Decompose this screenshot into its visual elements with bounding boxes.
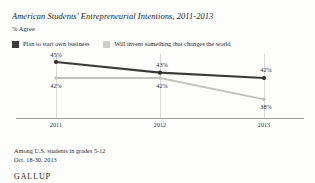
legend-swatch-icon-series-2 bbox=[103, 41, 110, 48]
footnote-line-2: Oct. 18-30, 2013 bbox=[14, 155, 303, 164]
legend-label-series-2: Will invent something that changes the w… bbox=[114, 40, 230, 48]
data-label-series-1-2013: 42% bbox=[260, 66, 271, 73]
chart-legend: Plan to start own business Will invent s… bbox=[12, 40, 303, 48]
legend-item-plan-to-start-own-business: Plan to start own business bbox=[12, 40, 89, 48]
x-tick-label-2013: 2013 bbox=[258, 121, 270, 128]
data-label-series-2-2013: 38% bbox=[260, 103, 271, 110]
x-axis-baseline bbox=[16, 118, 304, 119]
gallup-logo: GALLUP bbox=[14, 172, 303, 181]
data-point-marker bbox=[54, 60, 58, 64]
data-point-marker bbox=[158, 71, 162, 75]
chart-card: American Students' Entrepreneurial Inten… bbox=[0, 0, 315, 183]
chart-subtitle: % Agree bbox=[12, 24, 303, 33]
legend-swatch-icon-series-1 bbox=[12, 41, 19, 48]
chart-footnote: Among U.S. students in grades 5-12 Oct. … bbox=[14, 146, 303, 164]
chart-title: American Students' Entrepreneurial Inten… bbox=[12, 12, 303, 22]
data-point-marker bbox=[54, 76, 57, 79]
plot-area: 45% 43% 42% 42% 42% 38% 2011 2012 2013 bbox=[16, 54, 304, 132]
data-label-series-2-2011: 42% bbox=[50, 82, 61, 89]
data-label-series-1-2011: 45% bbox=[50, 51, 61, 58]
data-point-marker bbox=[262, 98, 265, 101]
data-point-marker bbox=[158, 76, 161, 79]
footnote-line-1: Among U.S. students in grades 5-12 bbox=[14, 146, 303, 155]
data-label-series-1-2012: 43% bbox=[156, 61, 167, 68]
x-tick-label-2011: 2011 bbox=[50, 121, 62, 128]
legend-label-series-1: Plan to start own business bbox=[23, 40, 89, 48]
x-tick-label-2012: 2012 bbox=[154, 121, 166, 128]
legend-item-will-invent-something: Will invent something that changes the w… bbox=[103, 40, 230, 48]
data-point-marker bbox=[262, 76, 266, 80]
data-label-series-2-2012: 42% bbox=[156, 82, 167, 89]
